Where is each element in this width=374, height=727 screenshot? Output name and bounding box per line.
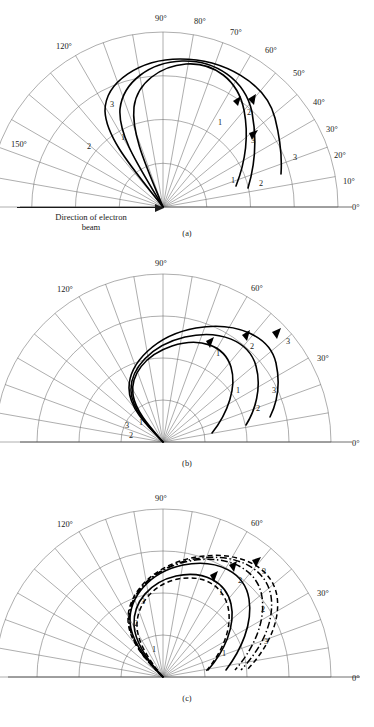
panel-c: 0°30°60°90°120° 321123231 (c) <box>0 480 374 705</box>
panel-a-tick-11: 150° <box>11 140 27 149</box>
grid-spoke-20 <box>163 147 327 207</box>
grid-spoke-40 <box>163 569 292 677</box>
panel-a-curve-label-0: 3 <box>110 100 114 109</box>
panel-a-curve-label-8: 2 <box>259 179 263 188</box>
panel-b-tick-3: 90° <box>155 259 167 268</box>
panel-c-curve-label-2: 1 <box>152 645 156 654</box>
panel-a-tick-0: 0° <box>352 203 360 212</box>
panel-c-svg: 0°30°60°90°120° 321123231 (c) <box>0 480 374 705</box>
panel-c-tick-0: 0° <box>352 674 360 683</box>
beam-direction-arrow-icon <box>17 203 165 212</box>
grid-spoke-140 <box>34 334 163 442</box>
panel-a-curve-label-6: 3 <box>293 153 297 162</box>
panel-a-curve-labels: 312123312 <box>87 100 297 188</box>
panel-c-curve-label-0: 3 <box>141 597 145 606</box>
panel-a-curve-label-7: 1 <box>231 176 235 185</box>
panel-a-tick-9: 90° <box>155 14 167 23</box>
panel-b: 0°30°60°90°120° 123123312 (b) <box>0 245 374 470</box>
panel-a-arrow-1 <box>233 96 241 106</box>
panel-a-tick-6: 60° <box>265 46 277 55</box>
panel-b-curve-label-3: 1 <box>236 386 240 395</box>
panel-b-caption: (b) <box>182 459 192 468</box>
panel-c-curve-label-3: 1 <box>219 588 223 597</box>
panel-a-tick-4: 40° <box>313 98 325 107</box>
panel-a-curve-label-1: 1 <box>121 133 125 142</box>
panel-a-tick-labels: 0°10°20°30°40°50°60°70°80°90°120°150° <box>11 14 360 212</box>
panel-b-curve-label-1: 2 <box>250 342 254 351</box>
panel-a-tick-5: 50° <box>293 69 305 78</box>
panel-c-curve-label-8: 1 <box>222 649 226 658</box>
panel-a-curve-label-3: 1 <box>218 118 222 127</box>
panel-a-tick-7: 70° <box>230 28 242 37</box>
panel-a-curve-label-4: 2 <box>247 108 251 117</box>
grid-spoke-140 <box>34 569 163 677</box>
panel-c-curves <box>128 555 278 677</box>
panel-a-tick-1: 10° <box>343 177 355 186</box>
grid-spoke-140 <box>29 95 163 207</box>
panel-c-tick-4: 120° <box>57 520 73 529</box>
beam-note-line-2: beam <box>6 223 176 233</box>
grid-spoke-70 <box>163 519 220 677</box>
grid-spoke-170 <box>0 648 163 677</box>
panel-c-curve-label-5: 3 <box>262 567 266 576</box>
panel-c-curve-label-7: 3 <box>264 637 268 646</box>
panel-c-polar-grid <box>0 509 331 677</box>
panel-b-curve-label-0: 1 <box>216 349 220 358</box>
panel-b-arrow-3 <box>272 328 281 339</box>
panel-b-tick-2: 60° <box>251 284 263 293</box>
grid-spoke-160 <box>0 147 163 207</box>
grid-spoke-40 <box>163 95 297 207</box>
panel-b-curve-label-8: 2 <box>129 431 133 440</box>
panel-b-curve-label-4: 2 <box>256 404 260 413</box>
panel-a-tick-8: 80° <box>194 17 206 26</box>
panel-a-tick-2: 20° <box>334 151 346 160</box>
panel-b-curves <box>129 326 281 442</box>
panel-b-svg: 0°30°60°90°120° 123123312 (b) <box>0 245 374 470</box>
panel-c-curve-label-6: 2 <box>261 605 265 614</box>
polar-plot-figure: 0°10°20°30°40°50°60°70°80°90°120°150° 31… <box>0 0 374 727</box>
panel-c-tick-2: 60° <box>251 519 263 528</box>
panel-a-tick-10: 120° <box>56 42 72 51</box>
grid-spoke-130 <box>51 73 163 207</box>
panel-b-tick-0: 0° <box>352 439 360 448</box>
panel-c-curve-label-4: 2 <box>238 576 242 585</box>
panel-a-curve-label-5: 3 <box>251 136 255 145</box>
panel-c-curve-label-1: 2 <box>134 619 138 628</box>
panel-b-curve-label-5: 3 <box>272 386 276 395</box>
panel-c-caption: (c) <box>182 694 192 703</box>
panel-b-curve-label-6: 3 <box>125 421 129 430</box>
grid-spoke-20 <box>163 385 321 442</box>
panel-b-curve-label-7: 1 <box>139 418 143 427</box>
panel-c-curve-2b <box>128 555 278 677</box>
grid-spoke-70 <box>163 284 220 442</box>
panel-a-caption: (a) <box>182 229 192 238</box>
panel-c-curve-labels: 321123231 <box>134 567 268 658</box>
panel-b-polar-grid <box>0 274 331 442</box>
panel-c-tick-3: 90° <box>155 494 167 503</box>
panel-a: 0°10°20°30°40°50°60°70°80°90°120°150° 31… <box>0 0 374 240</box>
grid-spoke-110 <box>106 284 163 442</box>
panel-c-tick-1: 30° <box>317 589 329 598</box>
electron-beam-direction-note: Direction of electron beam <box>6 203 176 233</box>
panel-b-tick-1: 30° <box>317 354 329 363</box>
panel-a-tick-3: 30° <box>326 125 338 134</box>
panel-b-curve-label-2: 3 <box>286 337 290 346</box>
panel-c-arrow-1 <box>210 571 218 582</box>
panel-a-curve-label-2: 2 <box>87 142 91 151</box>
panel-b-tick-4: 120° <box>57 285 73 294</box>
panel-a-curves <box>105 59 281 207</box>
panel-a-polar-grid <box>0 32 338 207</box>
